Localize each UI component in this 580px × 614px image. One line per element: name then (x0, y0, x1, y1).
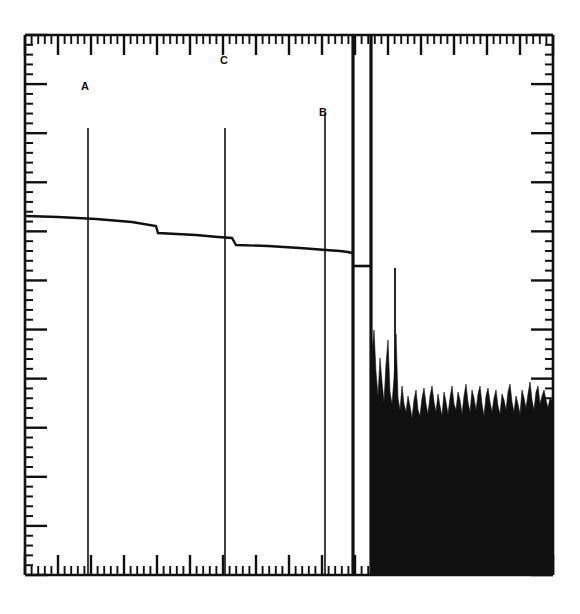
marker-label-b: B (319, 107, 327, 118)
marker-label-c: C (220, 55, 228, 66)
noise-solid-block (372, 428, 553, 575)
figure-canvas: A B C (0, 0, 580, 614)
marker-label-a: A (81, 81, 89, 92)
spectrum-analyzer-plot (0, 0, 580, 614)
